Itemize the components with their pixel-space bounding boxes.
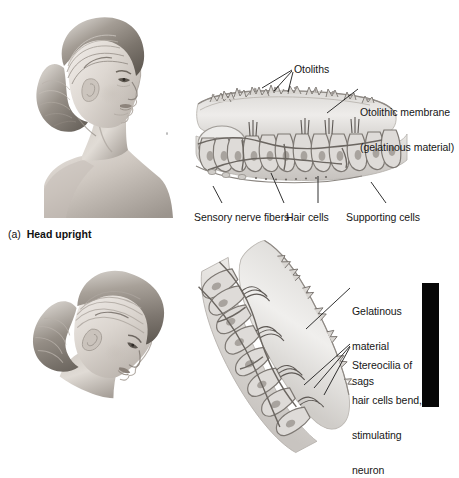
label-gelatinous-line1: Gelatinous xyxy=(352,306,402,318)
label-otoliths: Otoliths xyxy=(294,64,329,76)
macula-tilted-cross-section xyxy=(196,273,346,407)
panel-a: Otoliths Otolithic membrane (gelatinous … xyxy=(0,0,459,245)
panel-a-caption-text: Head upright xyxy=(27,228,92,240)
page-edge-black-bar xyxy=(422,283,439,407)
panel-a-caption: (a) Head upright xyxy=(8,228,91,240)
scan-speck xyxy=(166,132,168,135)
label-otolithic-membrane: Otolithic membrane (gelatinous material) xyxy=(360,84,454,177)
panel-a-caption-letter: (a) xyxy=(8,228,21,240)
label-stereocilia-line4: neuron xyxy=(352,465,422,477)
label-stereocilia-line1: Stereocilia of xyxy=(352,360,422,372)
label-otolithic-membrane-line2: (gelatinous material) xyxy=(360,142,454,154)
label-hair-cells: Hair cells xyxy=(286,212,329,224)
label-sensory-nerve-fibers: Sensory nerve fibers xyxy=(194,212,289,224)
woman-head-profile-upright xyxy=(8,10,188,218)
label-stereocilia-line2: hair cells bend, xyxy=(352,395,422,407)
label-otolithic-membrane-line1: Otolithic membrane xyxy=(360,107,454,119)
woman-head-profile-tilted xyxy=(24,270,204,410)
label-stereocilia-bend: Stereocilia of hair cells bend, stimulat… xyxy=(352,337,422,478)
label-stereocilia-line3: stimulating xyxy=(352,430,422,442)
label-supporting-cells: Supporting cells xyxy=(346,212,420,224)
panel-b: Gelatinous material sags Stereocilia of … xyxy=(0,245,459,407)
